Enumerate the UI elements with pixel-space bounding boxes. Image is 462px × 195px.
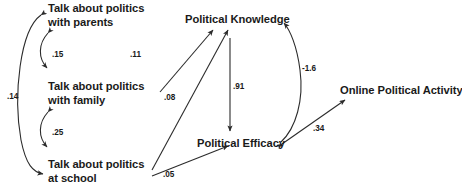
- edge-label-political-efficacy-online-political-activity: .34: [313, 124, 324, 133]
- edge-talk-family-political-knowledge: [160, 30, 213, 92]
- edge-label-talk-parents-talk-school: .14: [7, 92, 18, 101]
- path-diagram-canvas: Talk about politics with parents Talk ab…: [0, 0, 462, 195]
- edge-label-talk-family-talk-school: .25: [52, 128, 63, 137]
- edge-political-efficacy-political-knowledge: [281, 23, 301, 142]
- node-talk-about-politics-with-parents: Talk about politics with parents: [48, 2, 144, 29]
- edge-label-talk-school-political-knowledge: .08: [164, 93, 175, 102]
- edge-label-political-efficacy-political-knowledge: -1.6: [302, 64, 316, 73]
- edge-label-talk-school-political-efficacy: .05: [163, 170, 174, 179]
- node-talk-about-politics-at-school: Talk about politics at school: [48, 158, 144, 185]
- edge-label-political-knowledge-political-efficacy: .91: [233, 82, 244, 91]
- edge-talk-parents-talk-family: [40, 33, 48, 68]
- node-political-efficacy: Political Efficacy: [197, 137, 285, 151]
- node-online-political-activity: Online Political Activity: [340, 84, 462, 98]
- node-political-knowledge: Political Knowledge: [185, 13, 290, 27]
- edge-label-talk-parents-talk-family: .15: [52, 50, 63, 59]
- node-talk-about-politics-with-family: Talk about politics with family: [48, 80, 144, 107]
- edge-talk-parents-talk-school: [18, 15, 43, 174]
- edge-label-talk-family-political-knowledge: .11: [130, 50, 141, 59]
- edge-political-efficacy-online-political-activity: [282, 100, 345, 144]
- edge-talk-family-talk-school: [40, 112, 48, 147]
